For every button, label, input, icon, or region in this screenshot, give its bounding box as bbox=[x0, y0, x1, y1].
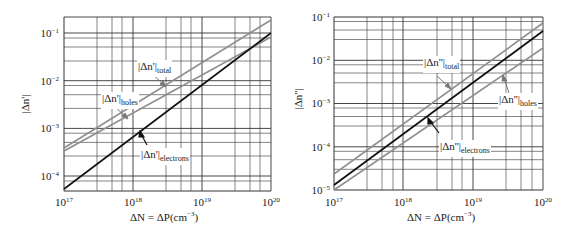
svg-text:1019: 1019 bbox=[193, 196, 212, 208]
label-electrons-sub: electrons bbox=[160, 154, 189, 163]
svg-text:10−2: 10−2 bbox=[41, 75, 60, 87]
label-total-base: |Δn''| bbox=[424, 56, 445, 68]
svg-text:10−1: 10−1 bbox=[41, 27, 60, 39]
chart-left: 10−1 10−2 10−3 10−4 1017 1018 1019 1020 … bbox=[0, 0, 285, 234]
svg-text:10−3: 10−3 bbox=[312, 97, 331, 109]
chart-right-plot: 10−1 10−2 10−3 10−4 10−5 1017 1018 1019 … bbox=[285, 0, 570, 234]
svg-text:1017: 1017 bbox=[55, 196, 74, 208]
svg-text:10−5: 10−5 bbox=[312, 184, 331, 196]
chart-left-plot: 10−1 10−2 10−3 10−4 1017 1018 1019 1020 bbox=[0, 0, 285, 234]
x-axis-title: ΔN = ΔP(cm−3) bbox=[130, 210, 198, 223]
label-holes-base: |Δn''| bbox=[499, 93, 520, 105]
y-tick-labels: 10−1 10−2 10−3 10−4 bbox=[41, 27, 60, 182]
svg-text:10−1: 10−1 bbox=[312, 11, 331, 23]
label-holes-base: |Δn'| bbox=[102, 92, 121, 104]
y-axis-title: |Δn''| bbox=[292, 89, 304, 110]
label-total-sub: total bbox=[445, 62, 459, 71]
y-tick-labels: 10−1 10−2 10−3 10−4 10−5 bbox=[312, 11, 331, 196]
label-electrons: |Δn''|electrons bbox=[439, 140, 491, 157]
label-total-base: |Δn'| bbox=[138, 60, 157, 72]
label-electrons: |Δn'|electrons bbox=[140, 148, 190, 165]
svg-text:1020: 1020 bbox=[534, 196, 553, 208]
svg-text:10−4: 10−4 bbox=[312, 141, 331, 153]
svg-text:10−4: 10−4 bbox=[41, 170, 60, 182]
x-axis-title-close: ) bbox=[471, 211, 475, 223]
x-axis-title-main: ΔN = ΔP(cm bbox=[407, 211, 464, 223]
series-electrons bbox=[64, 33, 271, 189]
x-axis-title-close: ) bbox=[194, 211, 198, 223]
x-axis-title: ΔN = ΔP(cm−3) bbox=[407, 210, 475, 223]
svg-text:10−2: 10−2 bbox=[312, 54, 331, 66]
series-holes bbox=[64, 37, 271, 151]
label-holes: |Δn''|holes bbox=[498, 93, 538, 110]
svg-text:1018: 1018 bbox=[394, 196, 413, 208]
label-holes: |Δn'|holes bbox=[101, 92, 139, 109]
label-electrons-sub: electrons bbox=[461, 146, 490, 155]
x-tick-labels: 1017 1018 1019 1020 bbox=[55, 196, 281, 208]
svg-text:1017: 1017 bbox=[325, 196, 344, 208]
label-electrons-base: |Δn''| bbox=[440, 140, 461, 152]
y-axis-title: |Δn'| bbox=[19, 95, 31, 114]
label-total: |Δn''|total bbox=[423, 56, 460, 73]
chart-right: 10−1 10−2 10−3 10−4 10−5 1017 1018 1019 … bbox=[285, 0, 570, 234]
label-total: |Δn'|total bbox=[137, 60, 172, 77]
x-axis-title-main: ΔN = ΔP(cm bbox=[130, 211, 187, 223]
label-total-sub: total bbox=[157, 66, 171, 75]
label-holes-sub: holes bbox=[121, 98, 138, 107]
label-holes-sub: holes bbox=[520, 99, 537, 108]
svg-text:1018: 1018 bbox=[124, 196, 143, 208]
svg-text:1019: 1019 bbox=[464, 196, 483, 208]
label-electrons-base: |Δn'| bbox=[141, 148, 160, 160]
svg-text:10−3: 10−3 bbox=[41, 122, 60, 134]
x-tick-labels: 1017 1018 1019 1020 bbox=[325, 196, 553, 208]
svg-text:1020: 1020 bbox=[262, 196, 281, 208]
